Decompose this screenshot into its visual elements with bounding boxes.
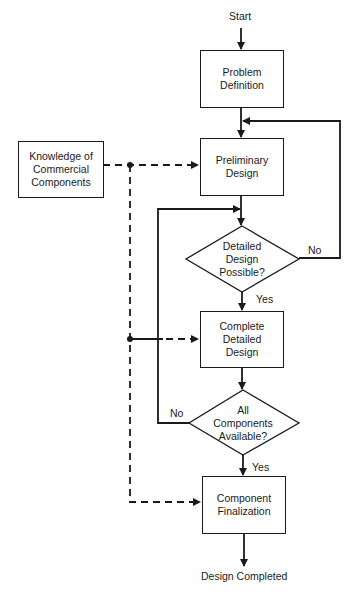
edge-knowledge-to-finalization (130, 165, 200, 502)
node-knowledge-commercial-components: Knowledge of Commercial Components (18, 141, 104, 198)
label-components-yes: Yes (252, 461, 269, 473)
junction-dot-1 (127, 162, 133, 168)
junction-dot-2 (127, 336, 133, 342)
end-label: Design Completed (201, 570, 287, 582)
flowchart-connectors (0, 0, 353, 596)
node-preliminary-design: Preliminary Design (200, 138, 284, 196)
start-label: Start (229, 10, 251, 22)
label-detailed-yes: Yes (256, 293, 273, 305)
label-components-no: No (170, 407, 183, 419)
decision-components-label: All Components Available? (197, 403, 289, 443)
decision-detailed-label: Detailed Design Possible? (196, 239, 288, 279)
label-detailed-no: No (308, 244, 321, 256)
node-problem-definition: Problem Definition (200, 50, 284, 108)
node-complete-detailed-design: Complete Detailed Design (200, 311, 284, 368)
node-component-finalization: Component Finalization (202, 476, 286, 534)
